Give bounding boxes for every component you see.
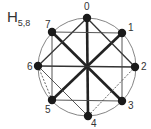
node-label-4: 4 bbox=[91, 118, 97, 129]
node-6 bbox=[34, 62, 42, 70]
node-label-6: 6 bbox=[27, 61, 33, 72]
edge-6-5 bbox=[38, 66, 52, 100]
node-0 bbox=[83, 14, 91, 22]
node-label-5: 5 bbox=[45, 104, 51, 115]
circulant-graph-diagram: 01234567 bbox=[0, 0, 151, 129]
node-label-0: 0 bbox=[84, 1, 90, 12]
node-2 bbox=[131, 63, 139, 71]
node-1 bbox=[118, 29, 126, 37]
edge-6-2 bbox=[38, 66, 135, 67]
node-label-3: 3 bbox=[128, 100, 134, 111]
node-label-2: 2 bbox=[141, 61, 147, 72]
node-5 bbox=[48, 96, 56, 104]
edge-7-1 bbox=[52, 32, 122, 33]
node-3 bbox=[118, 97, 126, 105]
node-label-7: 7 bbox=[45, 19, 51, 30]
edge-5-3 bbox=[52, 100, 122, 101]
node-label-1: 1 bbox=[128, 22, 134, 33]
